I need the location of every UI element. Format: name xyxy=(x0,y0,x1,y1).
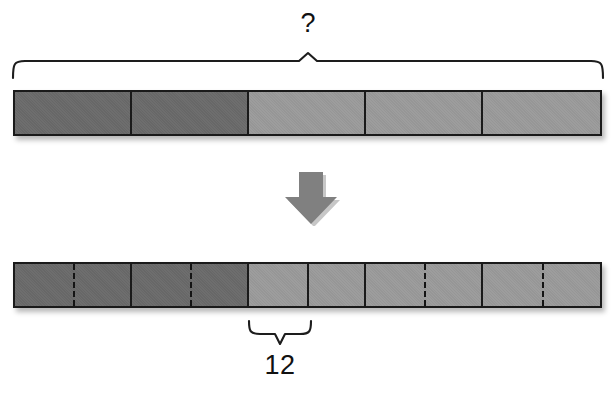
segment-4-half-divider-dashed xyxy=(424,264,426,306)
bottom-bar-segment-2 xyxy=(132,264,249,306)
top-brace xyxy=(11,52,604,80)
diagram-canvas: ? xyxy=(0,0,616,400)
bottom-bar-segment-1 xyxy=(15,264,132,306)
top-bar-segment-2 xyxy=(132,92,249,134)
bottom-bar-segment-3 xyxy=(249,264,366,306)
segment-3-half-divider-solid xyxy=(307,264,309,306)
arrow-down-icon xyxy=(281,168,341,226)
bottom-brace xyxy=(247,320,313,346)
unknown-total-label: ? xyxy=(0,10,616,37)
top-bar-segment-4 xyxy=(366,92,483,134)
segment-5-half-divider-dashed xyxy=(542,264,544,306)
partitioned-bar xyxy=(13,262,602,308)
segment-1-half-divider-dashed xyxy=(73,264,75,306)
whole-bar xyxy=(13,90,602,136)
known-part-label: 12 xyxy=(247,352,313,379)
bottom-bar-segment-5 xyxy=(483,264,600,306)
segment-2-half-divider-dashed xyxy=(190,264,192,306)
top-bar-segment-1 xyxy=(15,92,132,134)
top-bar-segment-3 xyxy=(249,92,366,134)
bottom-bar-segment-4 xyxy=(366,264,483,306)
top-bar-segment-5 xyxy=(483,92,600,134)
